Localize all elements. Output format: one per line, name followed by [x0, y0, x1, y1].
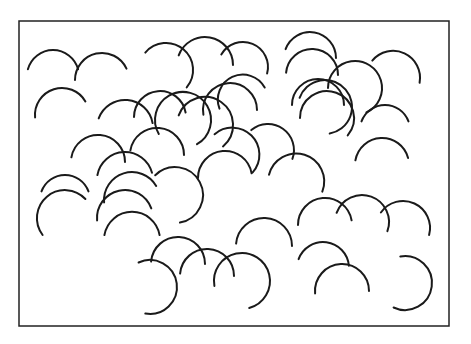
- frame-border: [19, 21, 449, 326]
- arc-25: [286, 49, 338, 75]
- arc-2: [35, 88, 85, 117]
- arc-14: [42, 175, 89, 191]
- arc-40: [104, 212, 159, 235]
- arc-1: [75, 53, 127, 80]
- arc-13: [71, 135, 125, 162]
- arc-38: [315, 264, 369, 293]
- arc-22: [269, 153, 324, 191]
- arc-37: [299, 242, 349, 266]
- arc-21: [251, 124, 294, 159]
- arc-11: [218, 75, 265, 109]
- arc-20: [215, 128, 260, 173]
- arcs-group: [28, 32, 432, 314]
- arc-8: [155, 92, 211, 144]
- arc-31: [300, 91, 354, 135]
- arc-18: [155, 167, 203, 223]
- arc-drawing: [0, 0, 471, 344]
- arc-41: [139, 260, 177, 314]
- arc-30: [300, 80, 352, 134]
- arc-35: [236, 218, 292, 246]
- arc-16: [104, 172, 156, 202]
- arc-43: [180, 249, 234, 276]
- arc-39: [394, 256, 432, 310]
- arc-6: [221, 42, 268, 74]
- arc-3: [99, 100, 153, 123]
- arc-36: [214, 253, 270, 308]
- arc-29: [355, 138, 408, 160]
- arc-19: [198, 151, 252, 178]
- arc-28: [362, 105, 409, 121]
- arc-15: [37, 190, 85, 235]
- arc-4: [145, 43, 193, 87]
- arc-0: [28, 50, 78, 69]
